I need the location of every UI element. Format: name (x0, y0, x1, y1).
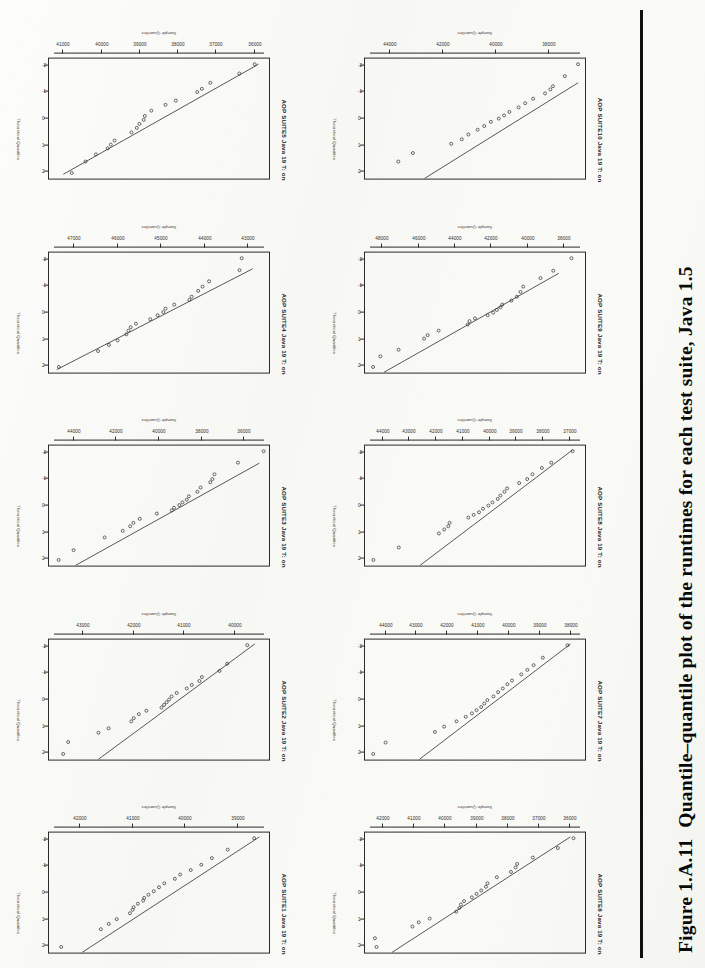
data-point (478, 511, 481, 514)
x-axis-tick-label: 38000 (172, 42, 185, 47)
x-axis-label: Sample Quantiles (48, 224, 270, 229)
data-point (475, 708, 478, 711)
x-axis-tick (254, 50, 255, 54)
x-axis-label: Sample Quantiles (48, 31, 270, 36)
data-point (411, 152, 414, 155)
data-point (190, 295, 193, 298)
data-point (57, 559, 60, 562)
y-axis-tick-label: -1 (358, 864, 362, 869)
x-axis-tick (570, 630, 571, 634)
data-point (506, 683, 509, 686)
qq-plot-panel: AOP SUITE1 Java 19 T: onTheoretical Quan… (0, 774, 316, 968)
panel-title: AOP SUITE2 Java 19 T: on (281, 661, 288, 781)
data-point (551, 85, 554, 88)
data-point (470, 712, 473, 715)
x-axis-line (54, 53, 264, 54)
x-axis-tick-label: 44000 (67, 429, 80, 434)
data-point (519, 290, 522, 293)
data-point (514, 866, 517, 869)
data-point (149, 317, 152, 320)
x-axis-tick-label: 38000 (564, 622, 577, 627)
data-point (132, 716, 135, 719)
data-point (373, 937, 376, 940)
data-point (489, 120, 492, 123)
panel-title: AOP SUITE5 Java 19 T: on (281, 80, 288, 200)
data-point (516, 863, 519, 866)
data-point (170, 695, 173, 698)
x-axis-tick-label: 42000 (376, 816, 389, 821)
data-point (99, 928, 102, 931)
panel-title: AOP SUITE1 Java 19 T: on (281, 854, 288, 968)
y-axis-label: Theoretical Quantiles (16, 273, 21, 393)
panel-inner: AOP SUITE8 Java 19 T: onTheoretical Quan… (316, 387, 632, 581)
y-axis-label: Theoretical Quantiles (332, 466, 337, 586)
y-axis-tick-label: 0 (358, 697, 361, 702)
data-point (200, 675, 203, 678)
x-axis-tick-label: 41000 (471, 622, 484, 627)
x-axis-tick-label: 37000 (532, 816, 545, 821)
x-axis-tick (382, 437, 383, 441)
x-axis-tick-label: 39000 (533, 622, 546, 627)
data-point (107, 923, 110, 926)
panel-inner: AOP SUITE10 Java 19 T: onTheoretical Qua… (316, 0, 632, 194)
x-axis-tick-label: 39000 (470, 816, 483, 821)
y-axis-label: Theoretical Quantiles (332, 273, 337, 393)
qq-plot-panel: AOP SUITE2 Java 19 T: onTheoretical Quan… (0, 581, 316, 775)
qq-plot-panel: AOP SUITE8 Java 19 T: onTheoretical Quan… (316, 387, 632, 581)
data-point (173, 303, 176, 306)
data-point (136, 903, 139, 906)
data-point (531, 856, 534, 859)
x-axis-tick (184, 824, 185, 828)
x-axis-tick (507, 824, 508, 828)
panel-title: AOP SUITE9 Java 19 T: on (597, 274, 604, 394)
data-point (170, 509, 173, 512)
data-point (501, 687, 504, 690)
panel-title: AOP SUITE7 Java 19 T: on (597, 661, 604, 781)
x-axis-tick-label: 41000 (57, 42, 70, 47)
data-point (94, 153, 97, 156)
data-point (163, 882, 166, 885)
x-axis-tick (183, 630, 184, 634)
data-point (226, 849, 229, 852)
data-point (443, 528, 446, 531)
x-axis-line (370, 440, 580, 441)
qq-plot-panel: AOP SUITE7 Java 19 T: onTheoretical Quan… (316, 581, 632, 775)
data-point (475, 893, 478, 896)
x-axis-tick (177, 50, 178, 54)
x-axis-tick (413, 824, 414, 828)
x-axis-tick-label: 39000 (510, 429, 523, 434)
data-point (262, 450, 265, 453)
x-axis-tick (132, 824, 133, 828)
x-axis-tick-label: 43000 (403, 429, 416, 434)
x-axis-tick (247, 243, 248, 247)
data-point (397, 348, 400, 351)
data-point (209, 81, 212, 84)
data-point (455, 720, 458, 723)
x-axis-tick (462, 437, 463, 441)
y-axis-tick-label: -1 (358, 90, 362, 95)
data-point (499, 494, 502, 497)
y-axis-tick-label: 1 (358, 917, 361, 922)
y-axis-tick-label: -2 (358, 450, 362, 455)
y-axis-tick-label: -1 (42, 864, 46, 869)
data-point (107, 727, 110, 730)
plot-canvas (364, 638, 586, 760)
x-axis-tick (569, 824, 570, 828)
y-axis-tick-label: -1 (358, 477, 362, 482)
y-axis-tick-label: 2 (42, 169, 45, 174)
y-axis-tick-label: 1 (42, 530, 45, 535)
x-axis-tick-label: 41000 (178, 622, 191, 627)
data-point (132, 522, 135, 525)
panel-inner: AOP SUITE7 Java 19 T: onTheoretical Quan… (316, 581, 632, 775)
x-axis-tick-label: 44000 (198, 235, 211, 240)
x-axis-tick-label: 40000 (439, 816, 452, 821)
data-point (467, 516, 470, 519)
y-axis: 210-1-2 (352, 251, 364, 373)
data-point (470, 896, 473, 899)
x-axis-tick-label: 38000 (558, 235, 571, 240)
x-axis-tick (527, 243, 528, 247)
y-axis-tick-label: -2 (358, 644, 362, 649)
y-axis-label: Theoretical Quantiles (332, 660, 337, 780)
plot-canvas (48, 445, 270, 567)
x-axis-tick (158, 437, 159, 441)
